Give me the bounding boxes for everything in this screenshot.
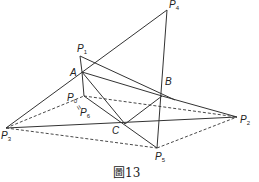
label-p4: P4 [169, 0, 180, 11]
label-p6: P6 [80, 107, 91, 119]
line-b-p2 [162, 96, 237, 117]
label-p0: P0 [67, 92, 78, 104]
solid-lines [6, 10, 237, 148]
label-c: C [112, 125, 120, 136]
label-b: B [165, 76, 172, 87]
point-labels: P4 P1 A B C P2 P3 P5 P0 = P6 [1, 0, 251, 163]
geometry-figure: P4 P1 A B C P2 P3 P5 P0 = P6 圖13 [0, 0, 259, 182]
arrow-p3-p4 [50, 92, 56, 97]
line-p1-b [80, 56, 175, 100]
dashed-p5-p2 [157, 117, 237, 148]
label-p3: P3 [1, 130, 12, 142]
arrow-p1-b [128, 78, 134, 81]
arrow-p5-c [140, 136, 145, 140]
label-p2: P2 [240, 114, 251, 126]
label-a: A [69, 67, 77, 78]
label-p5: P5 [155, 151, 166, 163]
line-b-c [125, 96, 162, 124]
arrow-c-p6 [97, 105, 102, 109]
label-p1: P1 [77, 43, 88, 55]
line-a-p1 [80, 56, 82, 72]
figure-caption: 圖13 [113, 166, 140, 180]
line-a-p0 [82, 72, 84, 96]
line-p5-p6 [84, 96, 157, 148]
dashed-p3-p5 [6, 128, 157, 148]
